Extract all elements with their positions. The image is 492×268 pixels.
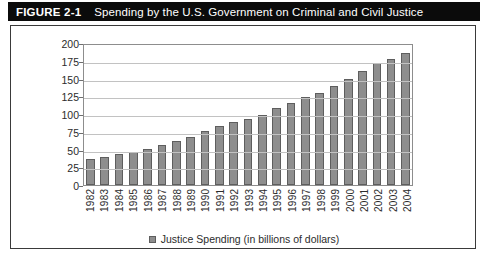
bar (229, 122, 238, 185)
x-tick-label: 1991 (215, 189, 224, 235)
y-tick-mark (79, 186, 83, 187)
x-tick-label: 1990 (200, 189, 209, 235)
x-tick-label: 1999 (330, 189, 339, 235)
x-tick-label: 2003 (388, 189, 397, 235)
bar (86, 159, 95, 185)
bar (172, 141, 181, 185)
x-tick-label: 2001 (359, 189, 368, 235)
y-tick-label: 100 (39, 110, 79, 120)
x-tick-label: 1996 (287, 189, 296, 235)
gridline (84, 81, 412, 82)
bars-layer (84, 45, 412, 185)
y-tick-label: 150 (39, 75, 79, 85)
y-tick-mark (79, 168, 83, 169)
x-tick-label: 1995 (272, 189, 281, 235)
x-tick-label: 2002 (373, 189, 382, 235)
x-tick-label: 1983 (99, 189, 108, 235)
bar (143, 149, 152, 185)
y-tick-label: 175 (39, 57, 79, 67)
figure-header-bar: FIGURE 2-1 Spending by the U.S. Governme… (8, 2, 480, 21)
x-tick-label: 2000 (345, 189, 354, 235)
gridline (84, 98, 412, 99)
bar (387, 59, 396, 185)
gridline (84, 134, 412, 135)
legend-swatch-icon (149, 236, 156, 243)
x-tick-label: 1993 (244, 189, 253, 235)
bar (272, 108, 281, 185)
x-tick-label: 1984 (114, 189, 123, 235)
bar (215, 126, 224, 185)
bar (100, 157, 109, 185)
bar (401, 53, 410, 185)
y-tick-mark (79, 44, 83, 45)
y-tick-mark (79, 133, 83, 134)
x-tick-label: 1986 (143, 189, 152, 235)
bar (315, 93, 324, 185)
plot-area (83, 44, 413, 186)
figure-number: FIGURE 2-1 (8, 6, 81, 18)
y-tick-label: 200 (39, 39, 79, 49)
y-tick-label: 25 (39, 163, 79, 173)
x-tick-label: 1985 (128, 189, 137, 235)
x-tick-label: 2004 (402, 189, 411, 235)
y-tick-label: 0 (39, 181, 79, 191)
x-tick-label: 1998 (316, 189, 325, 235)
y-tick-label: 125 (39, 92, 79, 102)
chart-legend: Justice Spending (in billions of dollars… (11, 233, 477, 245)
figure-title: Spending by the U.S. Government on Crimi… (81, 6, 423, 18)
x-tick-label: 1987 (157, 189, 166, 235)
x-tick-label: 1989 (186, 189, 195, 235)
x-axis: 1982198319841985198619871988198919901991… (83, 189, 413, 235)
x-tick-label: 1994 (258, 189, 267, 235)
gridline (84, 63, 412, 64)
x-tick-label: 1982 (85, 189, 94, 235)
y-tick-mark (79, 62, 83, 63)
y-tick-label: 75 (39, 128, 79, 138)
bar-chart: 0255075100125150175200 19821983198419851… (11, 26, 477, 250)
y-tick-mark (79, 97, 83, 98)
y-axis: 0255075100125150175200 (39, 44, 79, 186)
x-tick-label: 1988 (172, 189, 181, 235)
bar (301, 97, 310, 185)
y-tick-label: 50 (39, 146, 79, 156)
gridline (84, 152, 412, 153)
figure-frame: 0255075100125150175200 19821983198419851… (10, 25, 476, 249)
bar (358, 71, 367, 185)
bar (258, 115, 267, 185)
x-tick-label: 1992 (229, 189, 238, 235)
legend-label: Justice Spending (in billions of dollars… (161, 233, 340, 245)
gridline (84, 169, 412, 170)
y-tick-mark (79, 80, 83, 81)
y-tick-mark (79, 151, 83, 152)
bar (186, 137, 195, 185)
gridline (84, 116, 412, 117)
y-tick-mark (79, 115, 83, 116)
bar (201, 131, 210, 185)
x-tick-label: 1997 (301, 189, 310, 235)
